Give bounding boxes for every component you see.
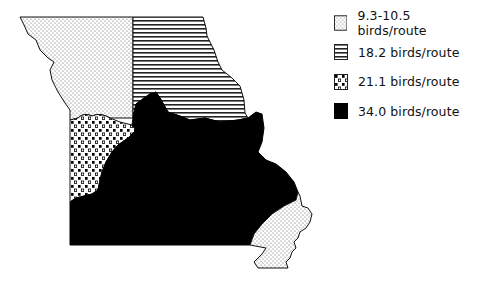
legend: 9.3-10.5 birds/route 18.2 birds/route 21… [332, 8, 479, 126]
legend-item-fine-dots: 9.3-10.5 birds/route [332, 8, 479, 38]
legend-label: 34.0 birds/route [358, 104, 459, 119]
region-northwest [20, 17, 133, 120]
legend-item-coarse-dots: 21.1 birds/route [332, 67, 479, 97]
legend-label: 21.1 birds/route [358, 74, 459, 89]
solid-black-swatch-icon [334, 103, 348, 119]
horizontal-lines-swatch-icon [334, 44, 348, 60]
legend-item-solid-black: 34.0 birds/route [332, 97, 479, 127]
legend-label: 18.2 birds/route [358, 45, 459, 60]
legend-label: 9.3-10.5 birds/route [357, 8, 479, 38]
coarse-dots-swatch-icon [334, 74, 348, 90]
fine-dots-swatch-icon [334, 15, 347, 31]
legend-item-horizontal-lines: 18.2 birds/route [332, 38, 479, 68]
